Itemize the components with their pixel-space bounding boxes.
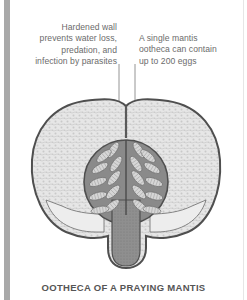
figure-caption: OOTHECA OF A PRAYING MANTIS — [0, 282, 247, 293]
ootheca-illustration — [0, 0, 247, 300]
figure-page: Hardened wall prevents water loss, preda… — [0, 0, 247, 300]
